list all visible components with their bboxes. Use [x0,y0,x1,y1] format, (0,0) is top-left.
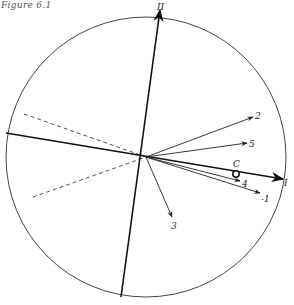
vector-diagram: III 254-13 C [0,0,294,305]
dashed-line [24,114,146,157]
dashed-lines [24,114,146,197]
axis-label-I: I [283,178,288,188]
vector-label: 2 [254,111,261,121]
point-c-marker [233,171,239,177]
axis-I [6,133,283,179]
axis-label-II: II [156,2,165,12]
vector--1 [146,157,260,193]
point-c: C [233,159,240,177]
vector-label: 3 [171,221,177,231]
vector-5 [146,143,247,157]
vector-label: 5 [249,139,255,149]
vector-3 [146,157,172,217]
vector-label: -1 [261,194,270,204]
vectors: 254-13 [146,111,270,231]
axes: III [6,2,288,297]
point-c-label: C [233,159,240,169]
vector-2 [146,117,253,157]
dashed-line [33,157,146,197]
